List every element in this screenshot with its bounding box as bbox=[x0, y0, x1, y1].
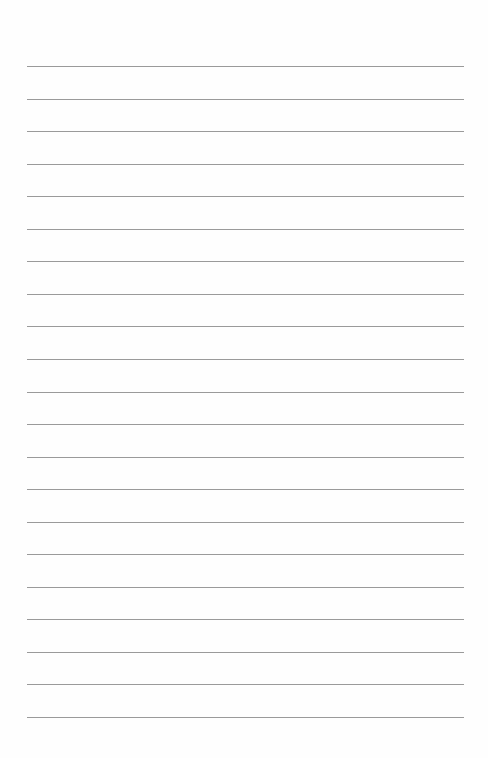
ruled-line bbox=[27, 684, 464, 685]
ruled-line bbox=[27, 457, 464, 458]
ruled-line bbox=[27, 261, 464, 262]
ruled-line bbox=[27, 717, 464, 718]
ruled-line bbox=[27, 294, 464, 295]
ruled-line bbox=[27, 66, 464, 67]
ruled-line bbox=[27, 424, 464, 425]
ruled-line bbox=[27, 652, 464, 653]
ruled-line bbox=[27, 164, 464, 165]
ruled-line bbox=[27, 392, 464, 393]
ruled-line bbox=[27, 229, 464, 230]
ruled-line bbox=[27, 619, 464, 620]
ruled-line bbox=[27, 587, 464, 588]
ruled-line bbox=[27, 131, 464, 132]
ruled-line bbox=[27, 99, 464, 100]
ruled-line bbox=[27, 554, 464, 555]
ruled-line bbox=[27, 522, 464, 523]
ruled-line bbox=[27, 326, 464, 327]
ruled-line bbox=[27, 489, 464, 490]
ruled-line bbox=[27, 196, 464, 197]
ruled-line bbox=[27, 359, 464, 360]
lined-paper-page bbox=[0, 0, 488, 758]
